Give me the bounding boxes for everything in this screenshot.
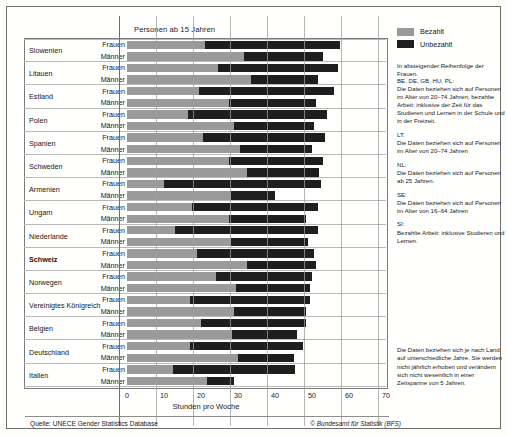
bar-segment-paid xyxy=(127,99,229,107)
bar-track xyxy=(127,294,386,306)
note-body: Die Daten beziehen sich auf Personen ab … xyxy=(397,169,506,185)
country-group: ItalienFrauenMänner xyxy=(24,364,386,387)
x-tick-70: 70 xyxy=(382,391,390,400)
series-label-women: Frauen xyxy=(84,63,125,72)
series-label-women: Frauen xyxy=(84,295,125,304)
bar-segment-paid xyxy=(127,272,216,280)
bar-track xyxy=(127,155,386,167)
note-block: LT:Die Daten beziehen sich auf Personen … xyxy=(397,131,506,155)
bar-segment-paid xyxy=(127,238,231,246)
bar-segment-unpaid xyxy=(238,354,294,362)
country-notes: BE, DE, GB, HU, PL:Die Daten beziehen si… xyxy=(397,77,506,250)
note-body: Bezahlte Arbeit: inklusive Studieren und… xyxy=(397,229,506,245)
series-label-men: Männer xyxy=(84,261,125,270)
series-label-women: Frauen xyxy=(84,179,125,188)
bar-row: Frauen xyxy=(24,39,386,51)
note-block: BE, DE, GB, HU, PL:Die Daten beziehen si… xyxy=(397,77,506,126)
legend: Bezahlt Unbezahlt xyxy=(397,27,505,52)
series-label-men: Männer xyxy=(84,237,125,246)
bar-segment-unpaid xyxy=(247,261,315,269)
data-year-note: Die Daten beziehen sich je nach Land auf… xyxy=(397,346,506,387)
bar-segment-unpaid xyxy=(197,249,314,257)
series-label-women: Frauen xyxy=(84,365,125,374)
series-label-women: Frauen xyxy=(84,226,125,235)
bar-track xyxy=(127,109,386,121)
series-label-women: Frauen xyxy=(84,272,125,281)
bar-row: Frauen xyxy=(24,201,386,213)
bar-track xyxy=(127,271,386,283)
bar-track xyxy=(127,364,386,376)
bar-row: Frauen xyxy=(24,62,386,74)
series-label-women: Frauen xyxy=(84,319,125,328)
bar-segment-paid xyxy=(127,64,218,72)
bar-segment-paid xyxy=(127,180,164,188)
legend-label-unpaid: Unbezahlt xyxy=(420,40,452,49)
bar-segment-paid xyxy=(127,157,229,165)
bar-row: Frauen xyxy=(24,294,386,306)
country-group: Vereinigtes KönigreichFrauenMänner xyxy=(24,294,386,317)
bar-segment-unpaid xyxy=(205,41,340,49)
bar-segment-paid xyxy=(127,215,229,223)
note-block: NL:Die Daten beziehen sich auf Personen … xyxy=(397,161,506,185)
legend-item-bezahlt: Bezahlt xyxy=(397,27,505,36)
country-group: LitauenFrauenMänner xyxy=(24,62,386,85)
country-group: EstlandFrauenMänner xyxy=(24,85,386,108)
bar-segment-paid xyxy=(127,168,247,176)
bar-segment-paid xyxy=(127,307,234,315)
bar-segment-paid xyxy=(127,122,234,130)
sort-order-note: In absteigender Reihenfolge der Frauen. xyxy=(397,62,505,78)
bar-segment-unpaid xyxy=(244,52,324,60)
bar-segment-paid xyxy=(127,377,207,385)
footer-divider xyxy=(25,416,389,417)
bar-segment-paid xyxy=(127,330,232,338)
series-label-men: Männer xyxy=(84,98,125,107)
bar-track xyxy=(127,225,386,237)
note-body: Die Daten beziehen sich auf Personen im … xyxy=(397,139,506,155)
bar-row: Frauen xyxy=(24,109,386,121)
series-label-women: Frauen xyxy=(84,40,125,49)
x-tick-30: 30 xyxy=(234,391,242,400)
bar-segment-unpaid xyxy=(188,110,327,118)
x-tick-60: 60 xyxy=(345,391,353,400)
bar-track xyxy=(127,340,386,352)
bar-track xyxy=(127,132,386,144)
bar-row: Frauen xyxy=(24,155,386,167)
bar-segment-unpaid xyxy=(251,75,318,83)
side-panel: Bezahlt Unbezahlt In absteigender Reihen… xyxy=(395,16,507,426)
bar-segment-unpaid xyxy=(229,157,323,165)
bar-segment-unpaid xyxy=(192,203,318,211)
bar-track xyxy=(127,201,386,213)
bar-segment-unpaid xyxy=(201,319,306,327)
series-label-women: Frauen xyxy=(84,203,125,212)
bar-segment-unpaid xyxy=(236,284,310,292)
bar-segment-unpaid xyxy=(234,307,306,315)
bar-segment-paid xyxy=(127,145,240,153)
country-group: SchwedenFrauenMänner xyxy=(24,155,386,178)
bar-row: Frauen xyxy=(24,340,386,352)
series-label-men: Männer xyxy=(84,52,125,61)
note-heading: LT: xyxy=(397,131,506,139)
bar-segment-paid xyxy=(127,191,231,199)
bar-segment-paid xyxy=(127,41,205,49)
bar-segment-paid xyxy=(127,319,201,327)
bar-row: Frauen xyxy=(24,248,386,260)
bar-segment-unpaid xyxy=(247,168,319,176)
country-group: SchweizFrauenMänner xyxy=(24,248,386,271)
bar-segment-paid xyxy=(127,296,190,304)
bar-row: Frauen xyxy=(24,132,386,144)
figure-frame: Personen ab 15 Jahren SlowenienFrauenMän… xyxy=(6,6,501,429)
x-tick-20: 20 xyxy=(197,391,205,400)
bar-track xyxy=(127,178,386,190)
x-tick-40: 40 xyxy=(271,391,279,400)
series-label-men: Männer xyxy=(84,284,125,293)
bar-segment-unpaid xyxy=(216,272,312,280)
country-group: DeutschlandFrauenMänner xyxy=(24,340,386,363)
note-heading: SE: xyxy=(397,191,506,199)
series-label-men: Männer xyxy=(84,145,125,154)
bar-row: Frauen xyxy=(24,178,386,190)
series-label-women: Frauen xyxy=(84,133,125,142)
series-label-men: Männer xyxy=(84,307,125,316)
bar-segment-paid xyxy=(127,87,199,95)
bar-row: Frauen xyxy=(24,364,386,376)
bar-segment-paid xyxy=(127,342,190,350)
